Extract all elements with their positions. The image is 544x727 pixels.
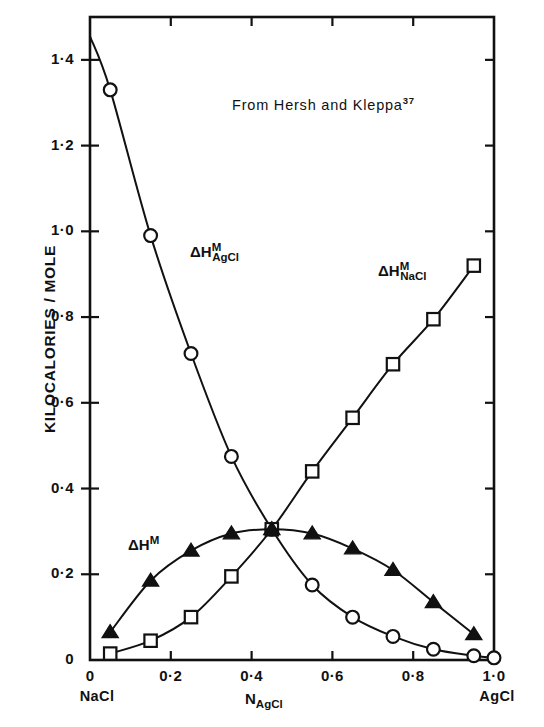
y-tick-label-5: 1·0 — [14, 221, 74, 238]
series-dH-M-NaCl-marker-1 — [144, 635, 156, 647]
x-axis-title-sub: AgCl — [256, 698, 283, 710]
series-dH-M-NaCl-marker-2 — [185, 611, 197, 623]
series-label-dH-M-AgCl: ΔHMAgCl — [190, 243, 239, 260]
series-dH-M-AgCl-marker-1 — [144, 229, 157, 242]
series-dH-M-marker-6 — [345, 541, 361, 554]
series-label-dH-M-main: ΔH — [128, 536, 150, 553]
series-dH-M-AgCl-marker-3 — [225, 450, 238, 463]
series-line-dH-M-AgCl — [90, 36, 494, 658]
series-dH-M-AgCl-marker-6 — [346, 611, 359, 624]
series-dH-M-AgCl-marker-0 — [104, 83, 117, 96]
series-dH-M-AgCl-marker-9 — [467, 649, 480, 662]
series-dH-M-AgCl-marker-8 — [427, 643, 440, 656]
series-label-dH-M-NaCl-main: ΔH — [378, 262, 400, 279]
series-dH-M-AgCl-marker-7 — [387, 630, 400, 643]
series-dH-M-marker-0 — [102, 625, 118, 638]
series-line-dH-M-NaCl — [110, 266, 474, 654]
y-tick-label-4: 0·8 — [14, 307, 74, 324]
series-label-dH-M-sup: M — [150, 534, 160, 546]
x-axis-title-main: N — [245, 690, 256, 707]
y-tick-label-6: 1·2 — [14, 136, 74, 153]
x-tick-label-0: 0 — [60, 667, 120, 684]
series-label-dH-M-AgCl-sub: AgCl — [212, 251, 239, 263]
chart-figure: KILOCALORIES / MOLE From Hersh and Klepp… — [0, 0, 544, 727]
series-dH-M-AgCl-marker-10 — [488, 651, 501, 664]
x-tick-label-3: 0·6 — [302, 667, 362, 684]
y-axis-title: KILOCALORIES / MOLE — [41, 209, 59, 469]
series-dH-M-AgCl-marker-5 — [306, 579, 319, 592]
y-tick-label-0: 0 — [14, 650, 74, 667]
y-tick-label-2: 0·4 — [14, 479, 74, 496]
x-tick-label-1: 0·2 — [141, 667, 201, 684]
x-end-label-right: AgCl — [462, 688, 532, 704]
x-end-label-left: NaCl — [62, 688, 132, 704]
y-tick-label-1: 0·2 — [14, 564, 74, 581]
series-dH-M-NaCl-marker-7 — [387, 358, 399, 370]
series-line-dH-M — [110, 529, 474, 634]
series-dH-M-NaCl-marker-8 — [427, 313, 439, 325]
series-dH-M-AgCl-marker-2 — [185, 347, 198, 360]
series-dH-M-NaCl-marker-6 — [346, 412, 358, 424]
source-annotation-ref: 37 — [403, 95, 415, 106]
series-dH-M-NaCl-marker-9 — [468, 259, 480, 271]
series-dH-M-NaCl-marker-3 — [225, 570, 237, 582]
series-label-dH-M: ΔHM — [128, 536, 159, 553]
x-tick-label-2: 0·4 — [222, 667, 282, 684]
series-label-dH-M-AgCl-main: ΔH — [190, 243, 212, 260]
series-dH-M-marker-7 — [385, 563, 401, 576]
source-annotation-text: From Hersh and Kleppa — [232, 97, 403, 113]
x-tick-label-5: 1·0 — [464, 667, 524, 684]
x-tick-label-4: 0·8 — [383, 667, 443, 684]
series-dH-M-NaCl-marker-0 — [104, 647, 116, 659]
plot-frame — [90, 17, 494, 660]
series-dH-M-NaCl-marker-5 — [306, 465, 318, 477]
series-label-dH-M-NaCl: ΔHMNaCl — [378, 262, 426, 279]
x-axis-title: NAgCl — [245, 690, 283, 707]
series-label-dH-M-NaCl-sub: NaCl — [400, 270, 426, 282]
y-tick-label-7: 1·4 — [14, 50, 74, 67]
y-tick-label-3: 0·6 — [14, 393, 74, 410]
series-dH-M-marker-2 — [183, 543, 199, 556]
source-annotation: From Hersh and Kleppa37 — [232, 95, 415, 113]
